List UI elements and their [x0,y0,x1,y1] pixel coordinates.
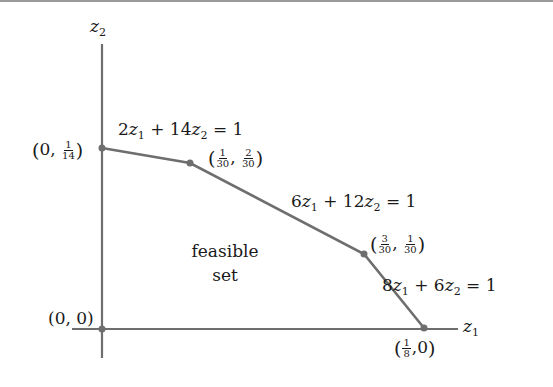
denominator: 8 [403,349,409,359]
coef-a: 6 [291,191,302,211]
vertex-label-0-1over14: (0, 114) [32,140,83,161]
equals-sign: = [386,191,400,211]
open-paren: ( [370,233,377,255]
comma: , [392,233,397,253]
coef-b: 12 [343,191,365,211]
set-word: set [185,264,265,288]
comma: , [65,308,70,328]
var-z: z [302,191,311,211]
rhs: 1 [406,191,417,211]
x-coord: 0 [39,139,50,159]
plus-sign: + [323,191,337,211]
z1-symbol: z [463,316,472,336]
rhs: 1 [233,119,244,139]
x-fraction: 130 [216,148,229,169]
open-paren: ( [208,147,215,169]
var-z: z [129,119,138,139]
var-sub: 1 [402,285,409,298]
vertex-1over8-0 [421,325,428,332]
close-paren: ) [87,308,94,328]
equals-sign: = [466,275,480,295]
vertex-0-1over14 [99,145,106,152]
coef-a: 8 [382,275,393,295]
var-z: z [393,275,402,295]
vertex-origin [99,326,106,333]
close-paren: ) [256,147,263,169]
close-paren: ) [76,139,83,161]
denominator: 14 [62,151,75,161]
open-paren: ( [394,337,401,359]
z1-subscript: 1 [472,326,479,339]
denominator: 30 [216,159,229,169]
coef-b: 14 [170,119,192,139]
vertex-label-1over30-2over30: (130, 230) [208,148,263,169]
var-sub: 1 [138,129,145,142]
constraint-label-3: 8z1 + 6z2 = 1 [382,277,497,294]
z2-symbol: z [90,16,99,36]
z2-subscript: 2 [99,26,106,39]
denominator: 30 [242,159,255,169]
vertex-3over30-1over30 [361,251,368,258]
coef-a: 2 [118,119,129,139]
x-coord: 0 [55,308,66,328]
var-sub: 2 [454,285,461,298]
y-fraction: 114 [62,140,75,161]
x-fraction: 330 [378,234,391,255]
equals-sign: = [213,119,227,139]
rhs: 1 [486,275,497,295]
y-coord: 0 [76,308,87,328]
plus-sign: + [150,119,164,139]
comma: , [230,147,235,167]
var-z: z [445,275,454,295]
close-paren: ) [428,337,435,359]
constraint-label-1: 2z1 + 14z2 = 1 [118,121,243,138]
x-fraction: 18 [402,338,410,359]
constraint-label-2: 6z1 + 12z2 = 1 [291,193,416,210]
var-sub: 1 [311,201,318,214]
vertex-label-3over30-1over30: (330, 130) [370,234,425,255]
y-fraction: 230 [242,148,255,169]
denominator: 30 [378,245,391,255]
close-paren: ) [418,233,425,255]
feasible-set-label: feasible set [185,240,265,288]
vertex-label-1over8-0: (18,0) [394,338,435,359]
coef-b: 6 [434,275,445,295]
var-sub: 2 [200,129,207,142]
z2-axis-label: z2 [90,18,106,35]
feasible-word: feasible [185,240,265,264]
var-sub: 2 [373,201,380,214]
denominator: 30 [404,245,417,255]
comma: , [50,139,55,159]
vertex-label-origin: (0, 0) [48,310,94,327]
z1-axis-label: z1 [463,318,479,335]
open-paren: ( [48,308,55,328]
vertex-1over30-2over30 [187,160,194,167]
y-coord: 0 [417,337,428,357]
plus-sign: + [414,275,428,295]
y-fraction: 130 [404,234,417,255]
